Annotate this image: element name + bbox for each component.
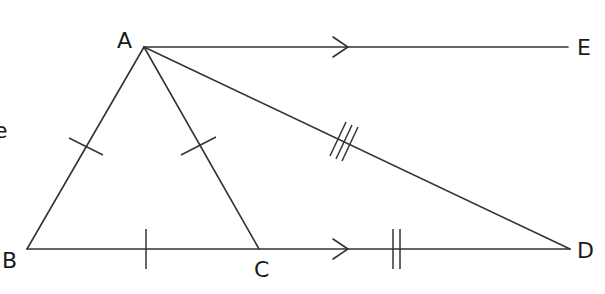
tick-AB	[69, 138, 103, 155]
segment-AB	[27, 47, 144, 249]
tick-AD-2	[336, 125, 352, 159]
label-C: C	[254, 257, 269, 282]
segment-AC	[144, 47, 259, 249]
tick-AD-1	[330, 122, 346, 156]
tick-AD-3	[342, 127, 358, 161]
segment-AD	[144, 47, 570, 249]
tick-AC	[181, 137, 216, 155]
label-E: E	[577, 35, 591, 60]
partial-text: e	[0, 118, 8, 143]
geometry-diagram: e A E B C D	[0, 0, 605, 294]
label-D: D	[577, 238, 594, 263]
label-A: A	[117, 28, 132, 53]
label-B: B	[2, 248, 17, 273]
